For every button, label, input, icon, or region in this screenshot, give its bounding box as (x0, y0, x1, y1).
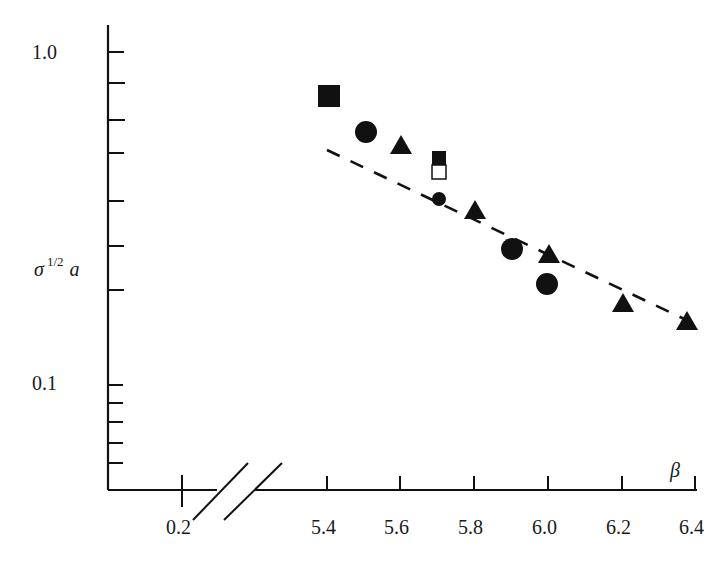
square-marker (318, 85, 340, 107)
x-tick-label-0.2: 0.2 (166, 516, 191, 539)
y-ticks (108, 52, 125, 463)
y-axis-label-exponent: 1/2 (47, 254, 64, 269)
triangle-marker (676, 311, 698, 330)
x-tick-label-6.2: 6.2 (606, 516, 631, 539)
y-axis-label: σ1/2a (34, 256, 80, 281)
y-tick-label-top: 1.0 (32, 41, 57, 64)
x-tick-label-6.0: 6.0 (532, 516, 557, 539)
triangle-marker (538, 244, 560, 263)
circle-marker (536, 273, 558, 295)
x-tick-label-5.4: 5.4 (311, 516, 336, 539)
triangle-marker (612, 293, 634, 312)
small-circle-marker (432, 192, 446, 206)
y-axis-label-sigma: σ (34, 258, 44, 280)
data-points (318, 85, 698, 330)
x-tick-label-6.4: 6.4 (679, 516, 704, 539)
x-axis-label: β (670, 459, 680, 482)
circle-marker (355, 121, 377, 143)
triangle-marker (464, 200, 486, 219)
axis-break-marks (193, 463, 282, 520)
y-tick-label-bottom: 0.1 (32, 372, 57, 395)
half-square-marker (432, 151, 446, 179)
chart-canvas (0, 0, 722, 565)
dashed-fit-line (327, 150, 697, 325)
y-axis-label-a: a (70, 258, 80, 280)
x-tick-label-5.8: 5.8 (458, 516, 483, 539)
triangle-marker (390, 135, 412, 154)
circle-marker (501, 238, 523, 260)
x-tick-label-5.6: 5.6 (384, 516, 409, 539)
